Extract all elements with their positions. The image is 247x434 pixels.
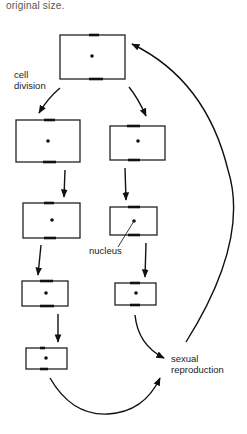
- nucleus-dot: [44, 291, 48, 295]
- arrow-left-1-to-left-2: [64, 170, 65, 197]
- label-cell-division-line1: cell: [14, 69, 28, 80]
- nucleus-dot: [50, 218, 54, 222]
- arrow-right-2-to-right-3: [145, 243, 146, 277]
- label-sexual-reproduction-line2: reproduction: [171, 364, 224, 375]
- arrow-right-1-to-right-2: [125, 168, 126, 200]
- nucleus-dot: [136, 139, 140, 143]
- arrow-left-2-to-left-3: [38, 245, 41, 275]
- arrow-right-3-to-sexual-reproduction: [135, 315, 164, 358]
- cell-parent: [60, 35, 125, 79]
- label-sexual-reproduction-line1: sexual: [171, 353, 198, 364]
- label-nucleus: nucleus: [89, 245, 122, 256]
- arrow-parent-to-right-1: [129, 87, 146, 116]
- arrow-parent-to-left-1: [39, 88, 60, 113]
- cell-left-1: [16, 120, 80, 162]
- nucleus-dot: [90, 54, 94, 58]
- nucleus-dot: [134, 291, 138, 295]
- cell-right-1: [110, 126, 165, 160]
- arrow-left-4-to-sexual-reproduction: [50, 378, 160, 414]
- nucleus-dot: [46, 139, 50, 143]
- cell-right-3: [115, 283, 156, 305]
- label-cell-division-line2: division: [14, 80, 46, 91]
- nucleus-dot: [44, 356, 48, 360]
- cell-division-diagram: cell division nucleus sexual reproductio…: [0, 0, 247, 434]
- cell-left-2: [23, 203, 80, 238]
- cell-left-3: [22, 281, 68, 306]
- cell-left-4: [26, 348, 67, 369]
